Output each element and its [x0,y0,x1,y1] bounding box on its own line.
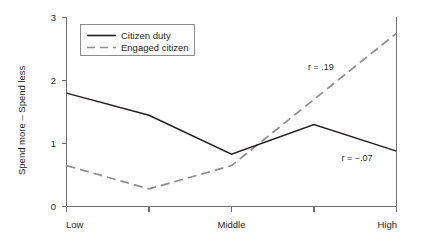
legend-label-citizen-duty: Citizen duty [121,30,171,41]
x-tick-label-high: High [377,219,397,230]
y-tick-label-0: 0 [51,201,56,212]
legend-label-engaged-citizen: Engaged citizen [121,42,189,53]
annotation-engaged-citizen-r: r = .19 [308,62,334,72]
y-tick-label-1: 1 [51,138,56,149]
series-line-citizen-duty [67,93,397,154]
x-tick-marks [67,207,397,212]
chart-legend: Citizen duty Engaged citizen [81,25,195,56]
annotation-citizen-duty-r: r = −.07 [341,153,372,163]
y-axis-title: Spend more – Spend less [16,65,27,175]
x-tick-label-low: Low [66,219,84,230]
x-tick-label-middle: Middle [218,219,246,230]
series-line-engaged-citizen [67,33,397,189]
y-tick-label-3: 3 [51,12,56,23]
chart-figure: 0 1 2 3 Low Middle High Spend more – Spe… [0,0,424,250]
y-tick-label-2: 2 [51,75,56,86]
line-chart: 0 1 2 3 Low Middle High Spend more – Spe… [0,0,424,250]
y-tick-marks [62,18,67,207]
